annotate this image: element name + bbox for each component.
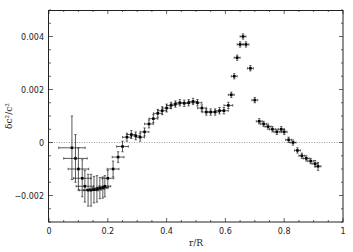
data-point — [234, 55, 240, 60]
data-point — [131, 132, 140, 140]
data-point — [231, 74, 237, 79]
data-point — [308, 158, 314, 163]
data-point — [107, 161, 119, 177]
data-point — [224, 102, 233, 108]
data-point — [97, 177, 109, 198]
data-point — [299, 153, 305, 158]
data-point — [68, 148, 89, 190]
data-point — [228, 92, 234, 97]
data-point — [303, 156, 309, 161]
data-point — [136, 133, 145, 141]
data-point — [294, 148, 300, 153]
svg-text:0.6: 0.6 — [219, 227, 232, 236]
svg-text:0.002: 0.002 — [21, 86, 44, 95]
data-point — [193, 100, 202, 106]
svg-text:−0.002: −0.002 — [14, 192, 44, 201]
data-point — [290, 140, 296, 145]
data-point — [261, 121, 267, 126]
data-point — [265, 124, 271, 129]
svg-text:0.2: 0.2 — [101, 227, 114, 236]
data-point — [252, 97, 258, 102]
x-tick-labels: 00.20.40.60.81 — [46, 227, 345, 236]
data-point — [102, 170, 114, 186]
data-point — [197, 105, 206, 111]
chart: 00.20.40.60.81 −0.00200.0020.004 r/R δc²… — [0, 0, 353, 252]
data-point — [274, 129, 280, 134]
svg-text:0: 0 — [46, 227, 51, 236]
svg-text:0.8: 0.8 — [278, 227, 291, 236]
data-point — [270, 127, 276, 132]
data-point — [220, 108, 229, 114]
data-point — [243, 42, 249, 47]
data-point — [59, 116, 85, 180]
svg-text:0: 0 — [39, 139, 44, 148]
data-point — [64, 135, 88, 183]
data-point — [237, 42, 243, 47]
svg-text:1: 1 — [340, 227, 345, 236]
data-point — [247, 66, 253, 71]
y-axis-label: δc²/c² — [4, 103, 14, 129]
svg-text:0.4: 0.4 — [160, 227, 173, 236]
data-points — [59, 34, 321, 206]
data-point — [140, 128, 149, 136]
data-point — [240, 34, 246, 39]
data-point — [145, 120, 154, 128]
y-tick-labels: −0.00200.0020.004 — [14, 33, 44, 201]
data-point — [256, 119, 262, 124]
svg-text:0.004: 0.004 — [21, 33, 44, 42]
data-point — [84, 174, 99, 206]
x-axis-label: r/R — [189, 238, 203, 248]
data-point — [286, 137, 292, 142]
data-point — [149, 115, 158, 123]
